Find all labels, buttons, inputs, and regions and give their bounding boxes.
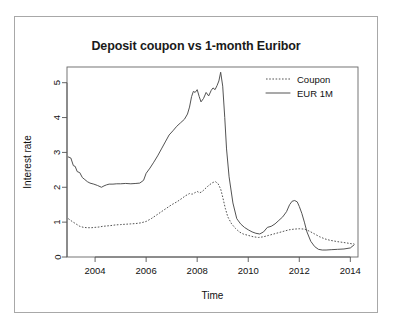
y-axis-title: Interest rate bbox=[22, 135, 33, 189]
x-axis-tick-label: 2012 bbox=[289, 265, 310, 276]
legend-label-coupon: Coupon bbox=[297, 74, 330, 85]
y-axis-tick-label: 1 bbox=[52, 219, 63, 224]
series-line-eur-1m bbox=[68, 72, 354, 250]
chart-plot-area: 012345200420062008201020122014TimeIntere… bbox=[15, 17, 377, 312]
y-axis-tick-label: 5 bbox=[52, 80, 63, 85]
figure-border: Deposit coupon vs 1-month Euribor 012345… bbox=[14, 16, 378, 313]
x-axis-tick-label: 2004 bbox=[85, 265, 106, 276]
legend-label-eur-1m: EUR 1M bbox=[297, 88, 333, 99]
y-axis-tick-label: 2 bbox=[52, 185, 63, 190]
x-axis-title: Time bbox=[202, 290, 224, 301]
series-line-coupon bbox=[68, 182, 354, 244]
y-axis-tick-label: 4 bbox=[52, 115, 63, 120]
x-axis-tick-label: 2010 bbox=[238, 265, 259, 276]
x-axis-tick-label: 2014 bbox=[340, 265, 361, 276]
y-axis-tick-label: 3 bbox=[52, 150, 63, 155]
x-axis-tick-label: 2006 bbox=[136, 265, 157, 276]
x-axis-tick-label: 2008 bbox=[187, 265, 208, 276]
y-axis-tick-label: 0 bbox=[52, 254, 63, 259]
